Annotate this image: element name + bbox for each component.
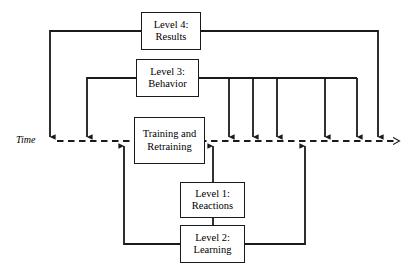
level-2-learning-line2: Learning — [194, 244, 232, 256]
time-axis-label: Time — [16, 134, 35, 145]
training-and-retraining-line2: Retraining — [147, 141, 191, 153]
level-4-results[interactable]: Level 4:Results — [141, 12, 201, 50]
level4-right-feedback — [201, 31, 378, 137]
level2-right-return — [245, 146, 305, 244]
level-1-reactions-line2: Reactions — [192, 200, 233, 212]
diagram-canvas: Time Level 4:ResultsLevel 3:BehaviorTrai… — [0, 0, 401, 276]
level-4-results-line1: Level 4: — [154, 19, 189, 31]
level-4-results-line2: Results — [156, 31, 187, 43]
level-3-behavior[interactable]: Level 3:Behavior — [136, 59, 199, 97]
level3-left-feedback — [87, 78, 136, 137]
level-2-learning-line1: Level 2: — [195, 232, 230, 244]
level-3-behavior-line2: Behavior — [148, 78, 187, 90]
level-3-behavior-line1: Level 3: — [150, 66, 185, 78]
training-and-retraining[interactable]: Training andRetraining — [134, 117, 205, 164]
level-1-reactions-line1: Level 1: — [195, 188, 230, 200]
level-1-reactions[interactable]: Level 1:Reactions — [180, 182, 245, 218]
training-and-retraining-line1: Training and — [143, 128, 197, 140]
level-2-learning[interactable]: Level 2:Learning — [180, 225, 245, 263]
level4-left-feedback — [50, 31, 141, 137]
